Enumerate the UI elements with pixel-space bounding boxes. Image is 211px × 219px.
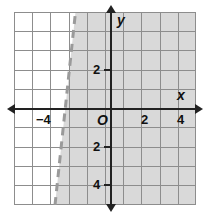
origin-label: O	[97, 113, 108, 127]
graph-grid: y x O −4 2 4 2 2 4	[14, 12, 196, 205]
y-axis-arrow-down	[106, 204, 116, 212]
x-axis-arrow-right	[195, 104, 203, 114]
y-axis	[110, 12, 112, 205]
coordinate-plane-figure: y x O −4 2 4 2 2 4	[0, 0, 211, 219]
y-tick-2	[104, 69, 110, 71]
x-axis	[14, 108, 196, 110]
x-axis-label: x	[177, 88, 185, 102]
x-axis-arrow-left	[7, 104, 15, 114]
x-tick-label-4: 4	[177, 113, 184, 126]
y-tick-minus-2	[104, 146, 110, 148]
y-tick-label-minus-2: 2	[93, 140, 100, 153]
y-axis-arrow-up	[106, 5, 116, 13]
y-axis-label: y	[117, 13, 125, 27]
x-tick-label-minus-4: −4	[36, 113, 51, 126]
y-tick-minus-4	[104, 184, 110, 186]
x-tick-label-2: 2	[141, 113, 148, 126]
y-tick-label-2: 2	[93, 63, 100, 76]
y-tick-label-minus-4: 4	[93, 178, 100, 191]
